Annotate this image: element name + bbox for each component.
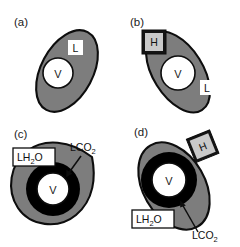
panel-c-lipid-co2-sub: 2 [92,147,96,156]
figure-container: (a) V L (b) V H L (c) V LH2O LC [0,0,240,247]
panel-b-vacuole-label: V [174,68,182,80]
panel-c-lipid-water-tail: O [35,151,43,163]
panel-c-vacuole-label: V [49,184,57,196]
panel-d: (d) V H LH2O LCO2 [120,122,240,247]
panel-b-hydration-high-label: H [150,36,158,48]
panel-b-lipid-low-label: L [204,82,210,94]
panel-a-vacuole-label: V [54,68,62,80]
panel-a-label: (a) [14,16,28,28]
panel-c-label: (c) [14,128,28,140]
panel-d-lipid-water-main: LH [136,213,149,225]
panel-d-lipid-co2-main: LCO [192,229,214,241]
panel-a: (a) V L [0,0,120,124]
panel-d-label: (d) [134,126,148,138]
panel-c-lipid-water-main: LH [17,151,30,163]
panel-d-lipid-water-tail: O [154,213,162,225]
panel-a-lipid-low-label: L [73,42,79,54]
panel-c-lipid-co2-main: LCO [70,141,92,153]
panel-c: (c) V LH2O LCO2 [0,122,120,247]
panel-d-lipid-co2-sub: 2 [214,235,218,244]
panel-b-label: (b) [130,16,144,28]
panel-b: (b) V H L [120,0,240,124]
panel-d-vacuole-label: V [165,175,173,187]
panel-d-lipid-co2-label: LCO2 [192,229,218,244]
